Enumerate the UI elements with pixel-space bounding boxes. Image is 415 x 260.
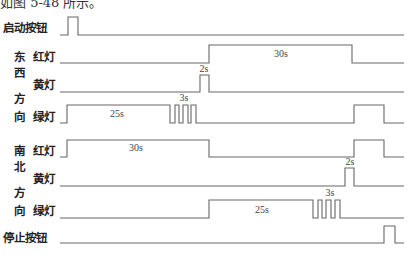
duration-label: 25s	[110, 108, 124, 119]
duration-label: 3s	[326, 187, 335, 198]
duration-label: 25s	[255, 204, 269, 215]
start-button-waveform	[60, 17, 404, 35]
ew-yellow-waveform	[60, 75, 404, 92]
timing-diagram: 30s2s25s3s30s2s25s3s	[0, 0, 415, 260]
stop-button-waveform	[60, 226, 404, 243]
duration-label: 2s	[346, 156, 355, 167]
ns-red-waveform	[60, 140, 404, 157]
ew-red-waveform	[60, 45, 404, 63]
duration-label: 3s	[180, 92, 189, 103]
duration-label: 30s	[129, 142, 143, 153]
duration-label: 2s	[200, 63, 209, 74]
duration-label: 30s	[274, 48, 288, 59]
ns-yellow-waveform	[60, 168, 404, 186]
ns-green-waveform	[60, 200, 404, 218]
